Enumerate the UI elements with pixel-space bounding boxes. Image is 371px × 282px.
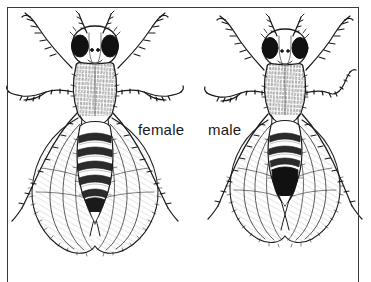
male-head [261,14,309,67]
male-eye-left [262,38,278,59]
label-female: female [138,122,184,137]
male-eye-right [292,38,308,59]
label-male: male [208,122,241,137]
male-thorax [262,64,308,124]
male-abdominal-bands [269,133,301,167]
